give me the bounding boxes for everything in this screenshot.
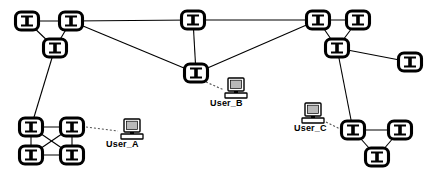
nodes-layer (16, 11, 422, 166)
network-diagram: User_AUser_BUser_C (0, 0, 439, 177)
switch-node-6[interactable] (307, 11, 330, 29)
network-link (196, 20, 318, 73)
network-diagram-canvas (0, 0, 439, 177)
host-user-b[interactable] (225, 78, 247, 98)
switch-node-8[interactable] (326, 39, 349, 57)
monitor-screen (126, 121, 137, 129)
switch-node-11[interactable] (61, 118, 84, 136)
host-label-user_b: User_B (210, 98, 243, 108)
host-link-user_b (206, 82, 224, 90)
host-link-user_a (86, 127, 118, 131)
network-link (337, 48, 353, 130)
switch-node-2[interactable] (60, 12, 83, 30)
host-label-user_c: User_C (294, 123, 327, 133)
switch-node-10[interactable] (20, 118, 43, 136)
host-user-a[interactable] (121, 119, 143, 139)
switch-node-14[interactable] (342, 121, 365, 139)
switch-node-16[interactable] (366, 148, 389, 166)
switch-node-9[interactable] (399, 53, 422, 71)
network-link (71, 21, 196, 73)
host-user-c[interactable] (302, 103, 324, 123)
host-link-user_c (326, 122, 340, 129)
monitor-screen (230, 80, 241, 88)
switch-node-4[interactable] (182, 11, 205, 29)
switch-node-7[interactable] (347, 11, 370, 29)
switch-node-3[interactable] (44, 39, 67, 57)
network-link (31, 48, 55, 127)
switch-node-15[interactable] (389, 121, 412, 139)
switch-node-12[interactable] (20, 146, 43, 164)
network-link (71, 20, 193, 21)
switch-node-13[interactable] (61, 146, 84, 164)
switch-node-5[interactable] (185, 64, 208, 82)
host-label-user_a: User_A (106, 139, 139, 149)
switch-node-1[interactable] (16, 12, 39, 30)
monitor-screen (307, 105, 318, 113)
